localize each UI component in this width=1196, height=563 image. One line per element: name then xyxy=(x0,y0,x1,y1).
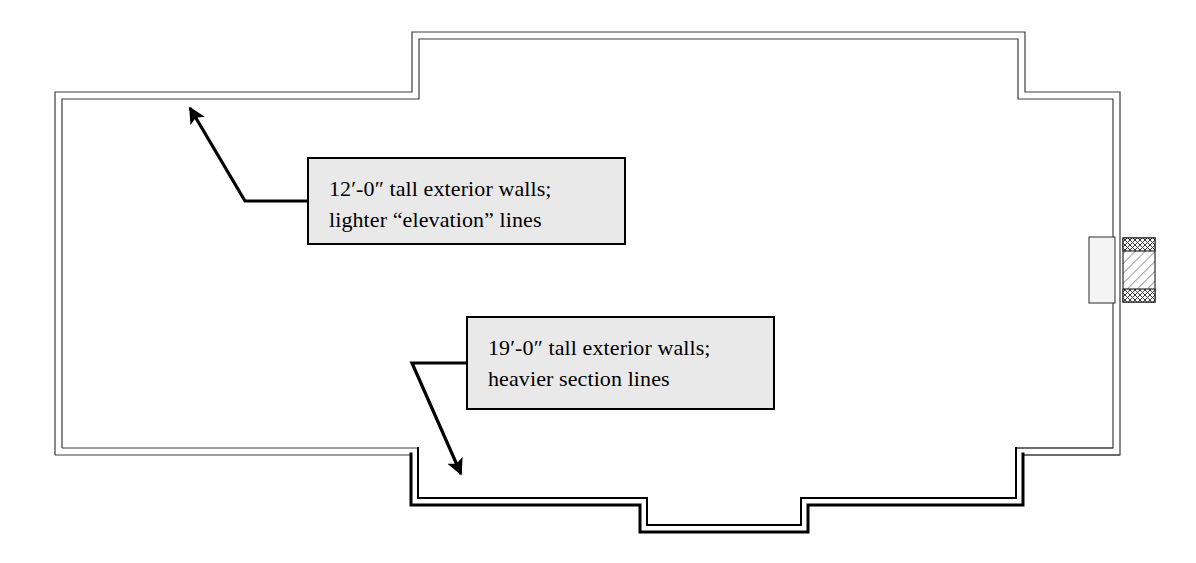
floor-plan-drawing xyxy=(0,0,1196,563)
detail-cross-hatch-cap-top xyxy=(1123,238,1155,251)
callout-12ft-line2: lighter “elevation” lines xyxy=(329,204,624,235)
leader-line-section xyxy=(412,363,468,474)
detail-inner-jamb-block xyxy=(1089,237,1115,303)
callout-box-19ft-walls: 19′-0″ tall exterior walls; heavier sect… xyxy=(466,316,775,410)
section-wall-outer-line xyxy=(411,454,1023,532)
callout-12ft-line1: 12′-0″ tall exterior walls; xyxy=(329,173,624,204)
east-wall-section-detail xyxy=(1089,237,1155,303)
detail-cross-hatch-cap-bottom xyxy=(1123,289,1155,302)
section-walls-group xyxy=(411,448,1023,532)
floor-plan-diagram: 12′-0″ tall exterior walls; lighter “ele… xyxy=(0,0,1196,563)
callout-19ft-line2: heavier section lines xyxy=(488,363,773,394)
section-wall-inner-line xyxy=(418,448,1016,525)
leader-line-elevation xyxy=(190,108,309,201)
callout-box-12ft-walls: 12′-0″ tall exterior walls; lighter “ele… xyxy=(307,157,626,245)
callout-19ft-line1: 19′-0″ tall exterior walls; xyxy=(488,332,773,363)
